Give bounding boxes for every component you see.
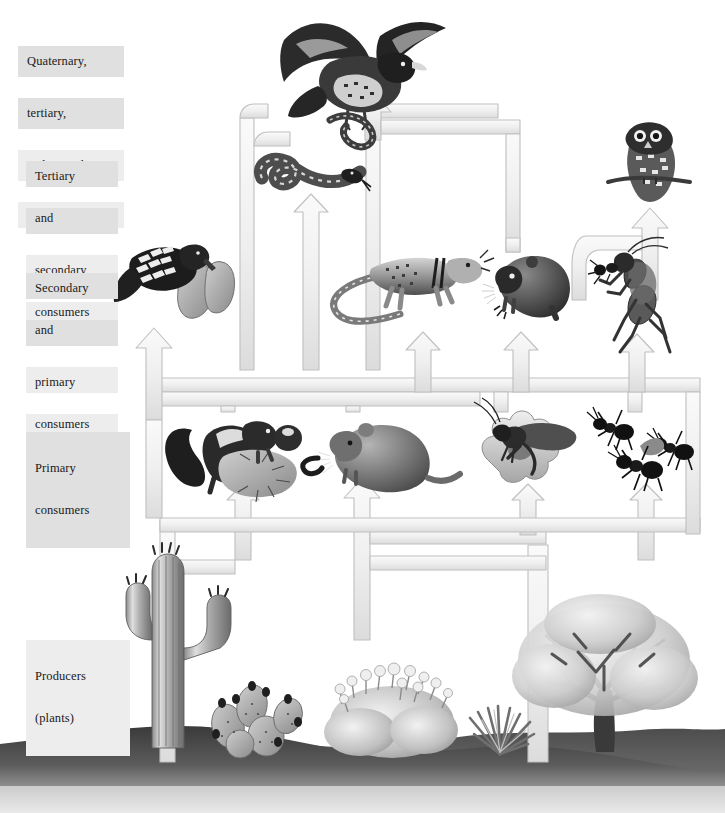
organism-hawk[interactable]: [280, 14, 450, 154]
organism-squirrel[interactable]: [160, 416, 304, 504]
packrat-hit-area[interactable]: [300, 420, 464, 496]
pricklypear-hit-area[interactable]: [200, 678, 318, 758]
organism-woodpecker[interactable]: [112, 240, 238, 332]
level-label-producers: Producers (plants): [26, 640, 130, 756]
organism-grasshopper[interactable]: [472, 396, 584, 488]
organism-ants[interactable]: [587, 407, 706, 500]
level-label-secondary-line1: Secondary: [26, 273, 118, 299]
organism-lizard[interactable]: [328, 250, 494, 321]
level-label-producers-line2: (plants): [35, 708, 121, 729]
ants-hit-area[interactable]: [588, 408, 706, 500]
organism-packrat[interactable]: [300, 420, 464, 496]
organism-shrub[interactable]: [322, 660, 464, 760]
organism-rattlesnake[interactable]: [248, 150, 371, 206]
organism-mantis[interactable]: [588, 236, 696, 364]
tree-hit-area[interactable]: [508, 594, 694, 760]
level-label-tertiary-line1: Tertiary: [26, 161, 118, 187]
level-label-primary-line1: Primary: [35, 458, 121, 479]
food-web-diagram: Quaternary, tertiary, and secondary cons…: [0, 0, 725, 813]
level-label-secondary-line2: and: [26, 320, 118, 346]
mouse-hit-area[interactable]: [484, 252, 580, 324]
level-label-primary-line2: consumers: [35, 500, 121, 521]
organism-owl[interactable]: [604, 118, 698, 212]
rattlesnake-hit-area[interactable]: [248, 150, 370, 206]
lizard-hit-area[interactable]: [328, 250, 494, 314]
grasshopper-hit-area[interactable]: [472, 396, 584, 488]
organism-tree[interactable]: [508, 594, 698, 760]
level-label-producers-line1: Producers: [35, 666, 121, 687]
level-label-quaternary-line1: Quaternary,: [18, 46, 124, 77]
organism-mouse[interactable]: [482, 252, 580, 324]
shrub-hit-area[interactable]: [322, 660, 464, 760]
level-label-tertiary-line2: and: [26, 208, 118, 234]
level-label-secondary: Secondary and primary consumers: [26, 252, 118, 461]
hawk-hit-area[interactable]: [282, 14, 450, 154]
level-label-primary: Primary consumers: [26, 432, 130, 548]
owl-hit-area[interactable]: [604, 118, 698, 212]
woodpecker-hit-area[interactable]: [112, 240, 238, 332]
level-label-quaternary-line2: tertiary,: [18, 98, 124, 129]
mantis-hit-area[interactable]: [588, 236, 696, 364]
level-label-secondary-line3: primary: [26, 367, 118, 393]
squirrel-hit-area[interactable]: [160, 416, 304, 504]
organism-pricklypear[interactable]: [200, 678, 318, 758]
